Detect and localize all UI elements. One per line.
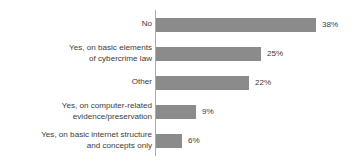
bar[interactable] <box>156 105 196 119</box>
chart-row: Yes, on computer-related evidence/preser… <box>0 97 354 126</box>
chart-row: Yes, on basic internet structure and con… <box>0 126 354 155</box>
bar[interactable] <box>156 18 316 32</box>
category-label-line: evidence/preservation <box>73 112 152 122</box>
bar-value-label: 6% <box>188 134 200 148</box>
category-label: Yes, on basic elements of cybercrime law <box>2 39 152 68</box>
category-label: Other <box>2 68 152 97</box>
category-label-line: Yes, on basic elements <box>69 43 152 53</box>
category-label: Yes, on computer-related evidence/preser… <box>2 97 152 126</box>
bar-value-label: 25% <box>267 47 283 61</box>
bar[interactable] <box>156 134 182 148</box>
bar-value-label: 22% <box>255 76 271 90</box>
chart-row: Yes, on basic elements of cybercrime law… <box>0 39 354 68</box>
horizontal-bar-chart: No 38% Yes, on basic elements of cybercr… <box>0 0 354 163</box>
chart-row: Other 22% <box>0 68 354 97</box>
category-label-line: Other <box>132 77 152 87</box>
bar[interactable] <box>156 47 261 61</box>
bar-value-label: 38% <box>322 18 338 32</box>
chart-row: No 38% <box>0 10 354 39</box>
category-label-line: and concepts only <box>87 141 152 151</box>
category-label-line: Yes, on computer-related <box>62 101 152 111</box>
category-label-line: Yes, on basic internet structure <box>41 130 152 140</box>
category-label-line: No <box>142 19 152 29</box>
category-label-line: of cybercrime law <box>89 54 152 64</box>
bar[interactable] <box>156 76 249 90</box>
bar-value-label: 9% <box>202 105 214 119</box>
category-label: Yes, on basic internet structure and con… <box>2 126 152 155</box>
category-label: No <box>2 10 152 39</box>
